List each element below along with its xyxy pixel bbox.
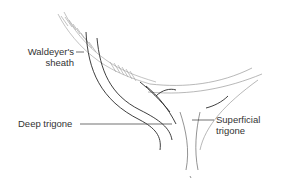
trigone-diagram bbox=[0, 0, 283, 184]
label-waldeyers-sheath: Waldeyer's sheath bbox=[18, 46, 74, 68]
label-superficial-trigone-line1: Superficial bbox=[216, 114, 260, 125]
trigone-stem bbox=[180, 112, 200, 178]
bladder-wall-light-curves bbox=[148, 68, 262, 150]
label-superficial-trigone: Superficial trigone bbox=[216, 114, 260, 136]
label-waldeyers-sheath-line2: sheath bbox=[18, 57, 74, 68]
leader-lines bbox=[76, 52, 214, 124]
label-superficial-trigone-line2: trigone bbox=[216, 125, 260, 136]
label-waldeyers-sheath-line1: Waldeyer's bbox=[18, 46, 74, 57]
label-deep-trigone: Deep trigone bbox=[18, 118, 72, 129]
